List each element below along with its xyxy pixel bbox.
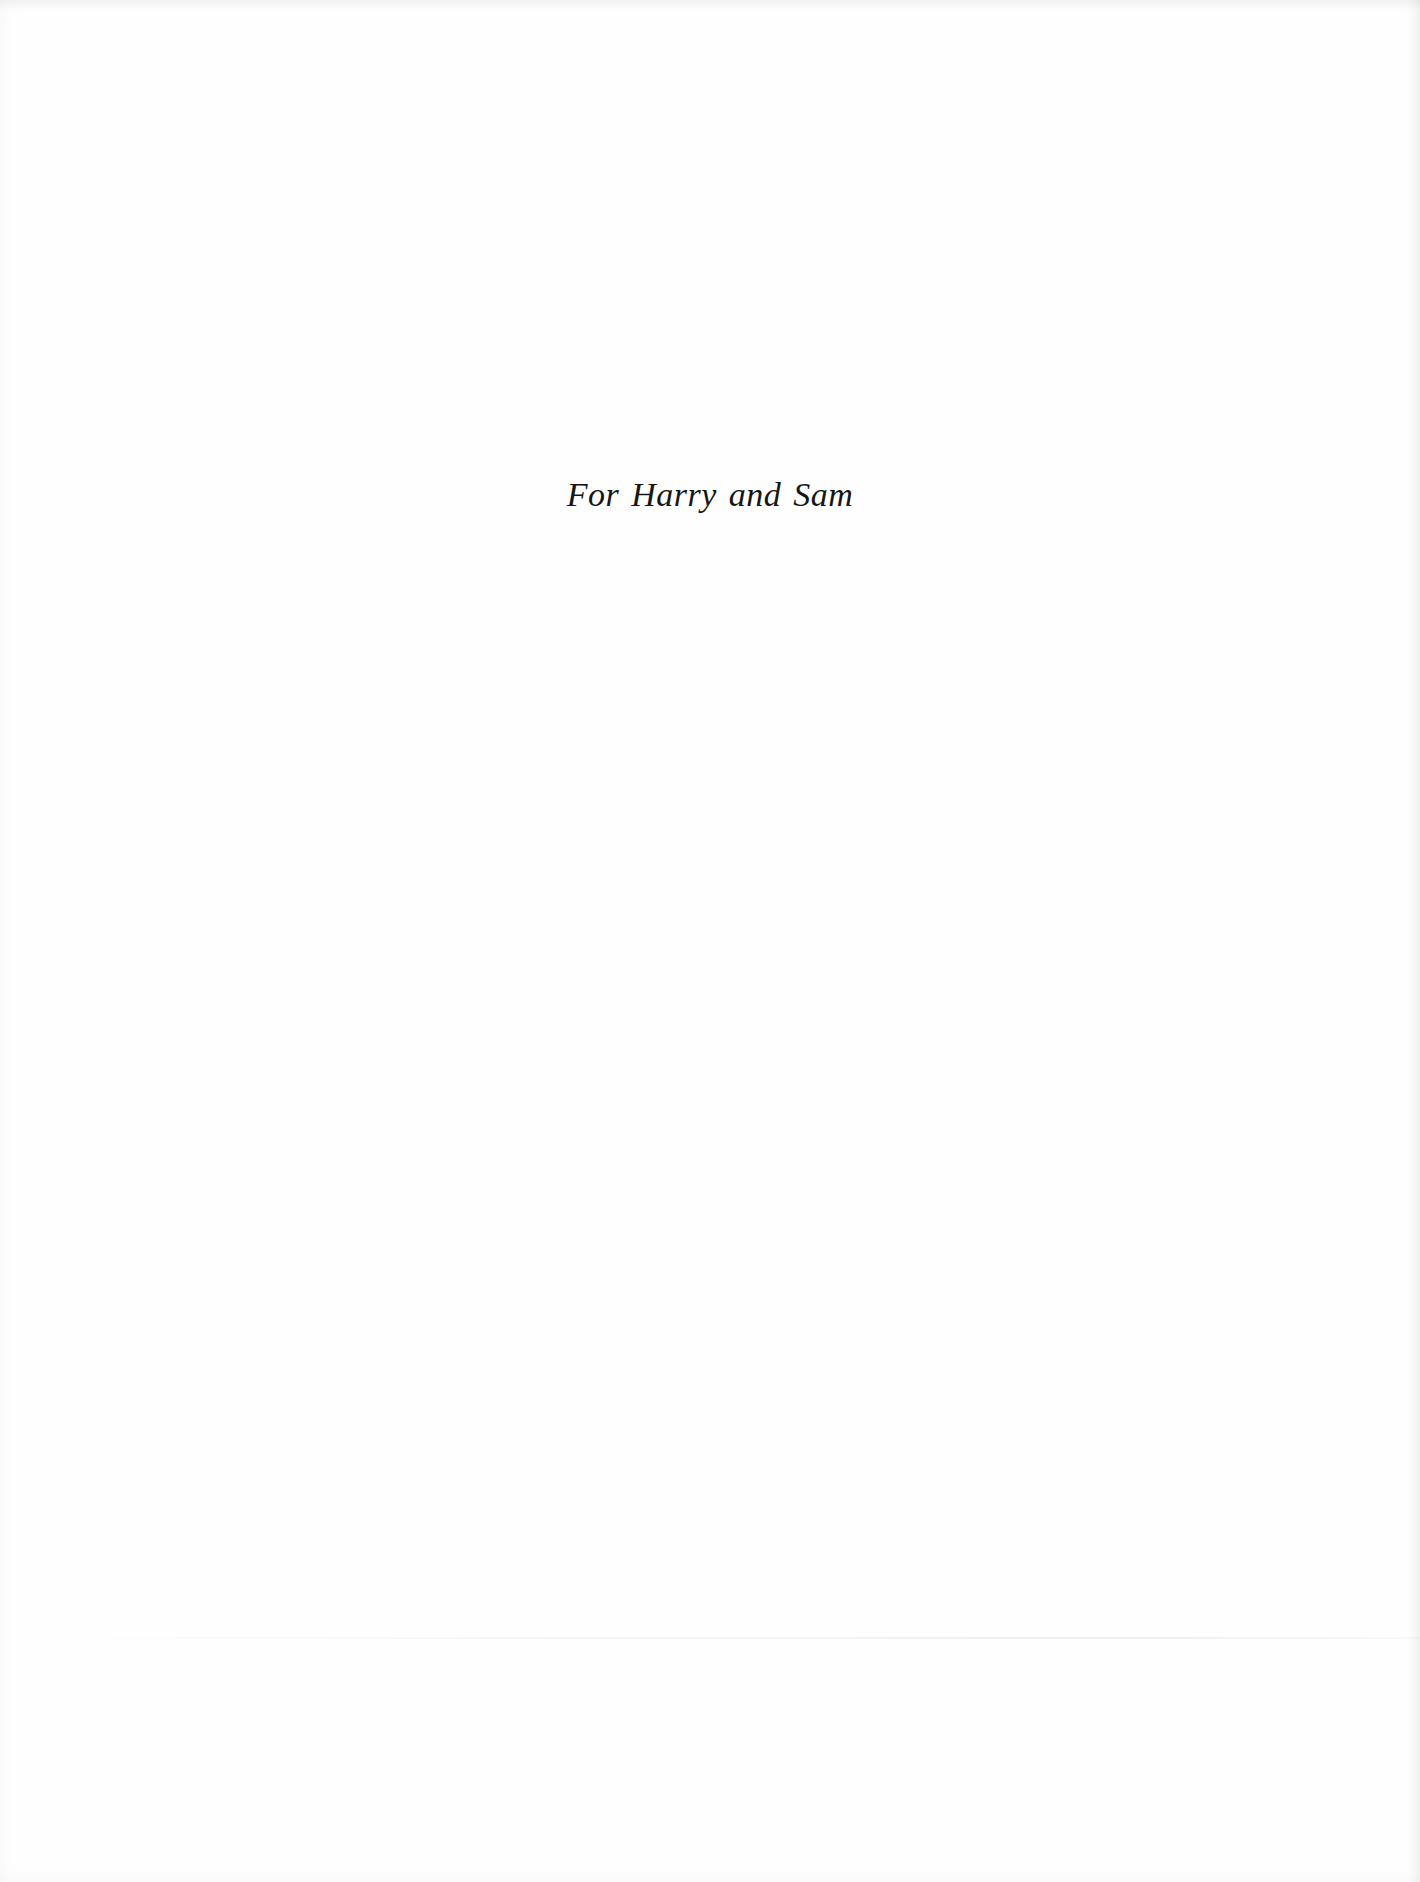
book-page: For Harry and Sam (0, 0, 1420, 1882)
page-top-shadow (0, 0, 1420, 10)
dedication-text: For Harry and Sam (0, 470, 1420, 520)
page-right-shadow (1408, 0, 1420, 1882)
page-fold-line (0, 1637, 1420, 1639)
